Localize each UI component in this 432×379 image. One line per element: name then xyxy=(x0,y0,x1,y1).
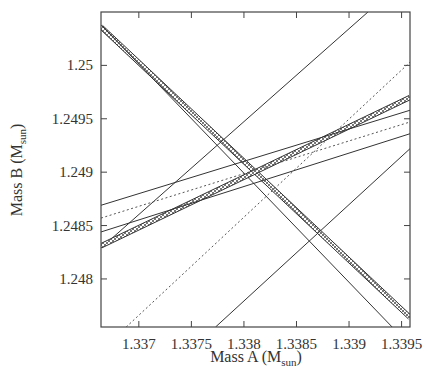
x-tick-label: 1.3395 xyxy=(381,336,422,352)
band-edge xyxy=(100,95,409,243)
constraint-line xyxy=(101,134,410,232)
y-tick-label: 1.248 xyxy=(59,271,93,287)
constraint-line xyxy=(126,62,410,327)
y-tick-label: 1.2485 xyxy=(52,218,93,234)
y-axis-ticks: 1.2481.24851.2491.24951.25 xyxy=(52,57,410,287)
y-tick-label: 1.249 xyxy=(59,164,93,180)
x-tick-label: 1.3375 xyxy=(171,336,212,352)
x-axis-ticks: 1.3371.33751.3381.33851.3391.3395 xyxy=(122,12,422,352)
y-axis-title: Mass B (Msun) xyxy=(8,124,28,217)
plot-series xyxy=(99,12,411,327)
constraint-line xyxy=(101,12,368,248)
y-tick-label: 1.25 xyxy=(67,57,93,73)
x-tick-label: 1.337 xyxy=(122,336,156,352)
mass-mass-chart: 1.3371.33751.3381.33851.3391.3395 1.2481… xyxy=(0,0,432,379)
hatched-band xyxy=(100,95,411,247)
y-tick-label: 1.2495 xyxy=(52,111,93,127)
band-edge xyxy=(102,99,411,247)
x-tick-label: 1.339 xyxy=(332,336,366,352)
